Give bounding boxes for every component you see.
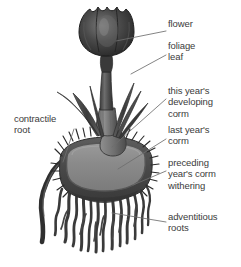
label-contractile-root: contractile root (14, 113, 56, 136)
label-flower: flower (168, 18, 193, 29)
label-preceding-years-corm-withering: preceding year's corm withering (168, 157, 216, 191)
flower-stem (100, 56, 113, 110)
label-last-years-corm: last year's corm (168, 124, 209, 147)
label-adventitious-roots: adventitious roots (168, 211, 218, 234)
leader-foliage-leaf (131, 55, 166, 74)
diagram-page: flower foliage leaf this year's developi… (0, 0, 241, 267)
flower-bloom (79, 7, 134, 56)
label-foliage-leaf: foliage leaf (168, 40, 195, 63)
label-this-years-developing-corm: this year's developing corm (168, 85, 213, 119)
